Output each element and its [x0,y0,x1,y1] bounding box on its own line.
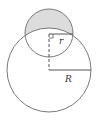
right-angle-marker [49,34,53,38]
large-radius-label: R [64,74,72,84]
two-circles-diagram: r R [0,0,96,120]
small-radius-label: r [59,36,64,46]
